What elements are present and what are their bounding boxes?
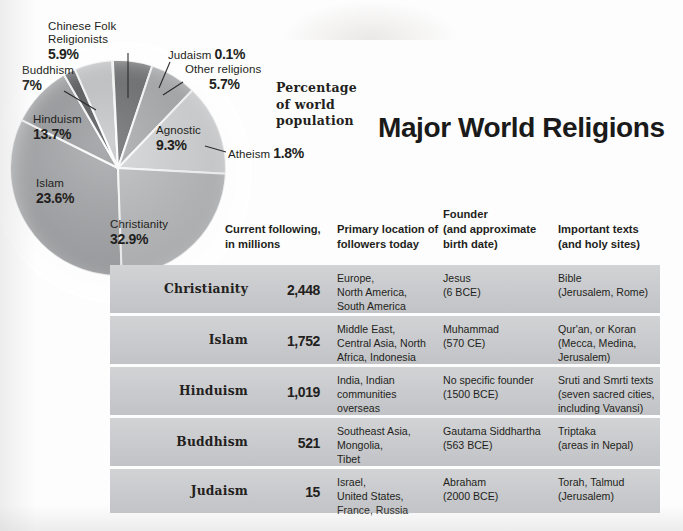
cell-religion: Islam bbox=[110, 332, 248, 348]
pie-label-buddhism-name: Buddhism bbox=[22, 64, 74, 77]
cell-primary-location: Europe,North America,South America bbox=[337, 272, 442, 313]
cell-religion: Hinduism bbox=[110, 383, 248, 399]
cell-important-texts: Sruti and Smrti texts(seven sacred citie… bbox=[558, 374, 670, 415]
pie-label-agnostic-pct: 9.3% bbox=[156, 137, 201, 153]
pie-label-hinduism: Hinduism 13.7% bbox=[33, 113, 82, 142]
cell-religion: Judaism bbox=[110, 483, 248, 499]
pie-label-hinduism-name: Hinduism bbox=[33, 113, 82, 126]
table-row: Christianity2,448Europe,North America,So… bbox=[110, 265, 660, 313]
percentage-caption: Percentage of world population bbox=[276, 80, 357, 130]
pie-label-atheism-pct: 1.8% bbox=[273, 145, 304, 161]
cell-important-texts: Torah, Talmud(Jerusalem) bbox=[558, 476, 670, 504]
pie-label-chinese-folk-line2: Religionists bbox=[48, 33, 113, 46]
pie-label-chinese-folk-line1: Chinese Folk bbox=[48, 20, 116, 33]
column-header-current-following: Current following, in millions bbox=[225, 222, 335, 252]
pie-label-islam-name: Islam bbox=[36, 177, 74, 190]
cell-founder: Abraham(2000 BCE) bbox=[443, 476, 558, 504]
pie-label-hinduism-pct: 13.7% bbox=[33, 126, 82, 142]
cell-current-following: 1,752 bbox=[250, 332, 320, 350]
pie-label-chinese-folk-pct: 5.9% bbox=[48, 46, 116, 62]
cell-religion: Buddhism bbox=[110, 434, 248, 450]
percentage-caption-line3: population bbox=[276, 113, 357, 130]
cell-important-texts: Bible(Jerusalem, Rome) bbox=[558, 272, 670, 300]
percentage-caption-line1: Percentage bbox=[276, 80, 357, 97]
cell-primary-location: Middle East,Central Asia, NorthAfrica, I… bbox=[337, 323, 442, 364]
cell-founder: Jesus(6 BCE) bbox=[443, 272, 558, 300]
infographic-page: Chinese Folk Religionists5.9% Buddhism 7… bbox=[0, 0, 683, 531]
cell-religion: Christianity bbox=[110, 281, 248, 297]
pie-label-buddhism: Buddhism 7% bbox=[22, 64, 74, 93]
pie-label-islam-pct: 23.6% bbox=[36, 190, 74, 206]
table-row: Judaism15Israel,United States,France, Ru… bbox=[110, 469, 660, 513]
table-header: Current following, in millions Primary l… bbox=[110, 206, 660, 258]
column-header-founder: Founder (and approximate birth date) bbox=[443, 207, 563, 252]
cell-founder: No specific founder(1500 BCE) bbox=[443, 374, 558, 402]
cell-primary-location: Israel,United States,France, Russia bbox=[337, 476, 442, 517]
cell-current-following: 521 bbox=[250, 434, 320, 452]
cell-founder: Muhammad(570 CE) bbox=[443, 323, 558, 351]
pie-label-chinese-folk: Chinese Folk Religionists5.9% bbox=[48, 20, 116, 63]
pie-label-judaism-pct: 0.1% bbox=[215, 46, 246, 62]
table-row: Buddhism521Southeast Asia,Mongolia,Tibet… bbox=[110, 418, 660, 466]
table-row: Hinduism1,019India, Indiancommunitiesove… bbox=[110, 367, 660, 415]
cell-important-texts: Triptaka(areas in Nepal) bbox=[558, 425, 670, 453]
cell-current-following: 1,019 bbox=[250, 383, 320, 401]
cell-primary-location: India, Indiancommunitiesoverseas bbox=[337, 374, 442, 415]
percentage-caption-line2: of world bbox=[276, 97, 357, 114]
pie-label-other-religions-pct: 5.7% bbox=[209, 76, 261, 92]
pie-label-atheism-name: Atheism bbox=[228, 148, 270, 161]
pie-label-islam: Islam 23.6% bbox=[36, 177, 74, 206]
pie-label-judaism: Judaism0.1% bbox=[168, 45, 245, 63]
cell-primary-location: Southeast Asia,Mongolia,Tibet bbox=[337, 425, 442, 466]
pie-label-agnostic-name: Agnostic bbox=[156, 124, 201, 137]
pie-label-agnostic: Agnostic 9.3% bbox=[156, 124, 201, 153]
cell-important-texts: Qur'an, or Koran(Mecca, Medina,Jerusalem… bbox=[558, 323, 670, 364]
pie-label-buddhism-pct: 7% bbox=[22, 77, 74, 93]
pie-label-judaism-name: Judaism bbox=[168, 49, 212, 62]
pie-label-atheism: Atheism1.8% bbox=[228, 144, 304, 162]
page-title: Major World Religions bbox=[378, 112, 665, 144]
table-row: Islam1,752Middle East,Central Asia, Nort… bbox=[110, 316, 660, 364]
pie-label-other-religions: Other religions 5.7% bbox=[185, 63, 261, 92]
scan-smudge-top bbox=[280, 0, 460, 40]
cell-current-following: 2,448 bbox=[250, 281, 320, 299]
column-header-important-texts: Important texts (and holy sites) bbox=[558, 222, 670, 252]
column-header-primary-location: Primary location of followers today bbox=[337, 222, 447, 252]
pie-label-other-religions-name: Other religions bbox=[185, 63, 261, 76]
religions-table: Christianity2,448Europe,North America,So… bbox=[110, 265, 660, 513]
cell-founder: Gautama Siddhartha(563 BCE) bbox=[443, 425, 558, 453]
cell-current-following: 15 bbox=[250, 483, 320, 501]
